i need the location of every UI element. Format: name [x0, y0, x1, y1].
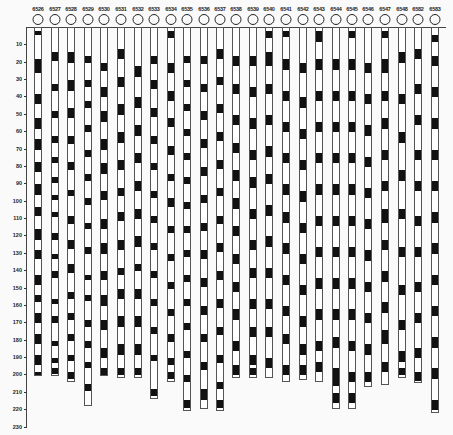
dark-band [415, 49, 421, 59]
dark-band [399, 368, 405, 375]
dark-band [250, 368, 256, 375]
dark-band [300, 254, 306, 264]
tick-mark [24, 44, 27, 45]
dark-band [266, 115, 272, 125]
dark-band [300, 191, 306, 201]
dark-band [349, 59, 355, 69]
dark-band [35, 372, 41, 375]
core-loop-icon [363, 14, 374, 25]
core-loop-icon [298, 14, 309, 25]
core-label: 6528 [65, 6, 76, 12]
dark-band [168, 309, 174, 316]
dark-band [201, 250, 207, 259]
dark-band [382, 209, 388, 223]
depth-tick-label: 20 [0, 59, 22, 65]
dark-band [250, 150, 256, 160]
dark-band [233, 254, 239, 264]
dark-band [316, 184, 322, 194]
dark-band [349, 278, 355, 288]
dark-band [300, 129, 306, 139]
dark-band [382, 240, 388, 250]
depth-tick-label: 140 [0, 267, 22, 273]
tick-mark [24, 114, 27, 115]
dark-band [101, 111, 107, 121]
dark-band [52, 177, 58, 182]
dark-band [333, 309, 339, 319]
dark-band [35, 313, 41, 323]
dark-band [168, 282, 174, 289]
tick-mark [24, 235, 27, 236]
depth-tick-label: 200 [0, 371, 22, 377]
dark-band [118, 289, 124, 299]
core-label: 6543 [313, 6, 324, 12]
dark-band [283, 212, 289, 222]
core-loop-icon [314, 14, 325, 25]
dark-band [399, 94, 405, 104]
dark-band [415, 372, 421, 381]
dark-band [300, 365, 306, 375]
depth-tick-label: 220 [0, 406, 22, 412]
dark-band [52, 136, 58, 143]
dark-band [118, 104, 124, 114]
dark-band [68, 372, 74, 379]
dark-band [300, 285, 306, 295]
core-column [34, 27, 42, 376]
dark-band [365, 63, 371, 73]
dark-band [399, 170, 405, 180]
dark-band [266, 358, 272, 368]
dark-band [333, 247, 339, 257]
dark-band [118, 188, 124, 197]
tick-mark [24, 288, 27, 289]
core-loop-icon [83, 14, 94, 25]
core-column [364, 27, 372, 387]
dark-band [101, 87, 107, 97]
dark-band [349, 341, 355, 351]
dark-band [151, 56, 157, 65]
dark-band [432, 368, 438, 378]
depth-tick-label: 150 [0, 285, 22, 291]
dark-band [399, 52, 405, 62]
tick-mark [24, 253, 27, 254]
dark-band [283, 122, 289, 132]
dark-band [101, 219, 107, 229]
dark-band [135, 264, 141, 271]
dark-band [52, 212, 58, 217]
dark-band [233, 84, 239, 94]
dark-band [217, 132, 223, 141]
dark-band [52, 84, 58, 91]
dark-band [68, 190, 74, 197]
core-column [282, 27, 290, 382]
dark-band [266, 31, 272, 38]
dark-band [432, 275, 438, 285]
dark-band [316, 278, 322, 288]
dark-band [382, 150, 388, 160]
dark-band [217, 271, 223, 280]
dark-band [68, 313, 74, 320]
dark-band [415, 313, 421, 323]
dark-band [201, 167, 207, 176]
dark-band [382, 271, 388, 281]
dark-band [135, 153, 141, 163]
core-column [200, 27, 208, 409]
dark-band [201, 223, 207, 232]
dark-band [52, 195, 58, 200]
dark-band [101, 63, 107, 72]
dark-band [184, 104, 190, 111]
dark-band [233, 365, 239, 375]
dark-band [316, 341, 322, 351]
dark-band [101, 191, 107, 200]
dark-band [135, 97, 141, 107]
dark-band [68, 136, 74, 145]
dark-band [151, 299, 157, 306]
dark-band [300, 344, 306, 354]
dark-band [85, 223, 91, 230]
core-column [134, 27, 142, 378]
dark-band [201, 111, 207, 120]
core-loop-icon [347, 14, 358, 25]
dark-band [333, 59, 339, 69]
dark-band [250, 240, 256, 250]
dark-band [432, 243, 438, 253]
dark-band [101, 163, 107, 173]
dark-band [168, 372, 174, 379]
core-label: 6542 [297, 6, 308, 12]
